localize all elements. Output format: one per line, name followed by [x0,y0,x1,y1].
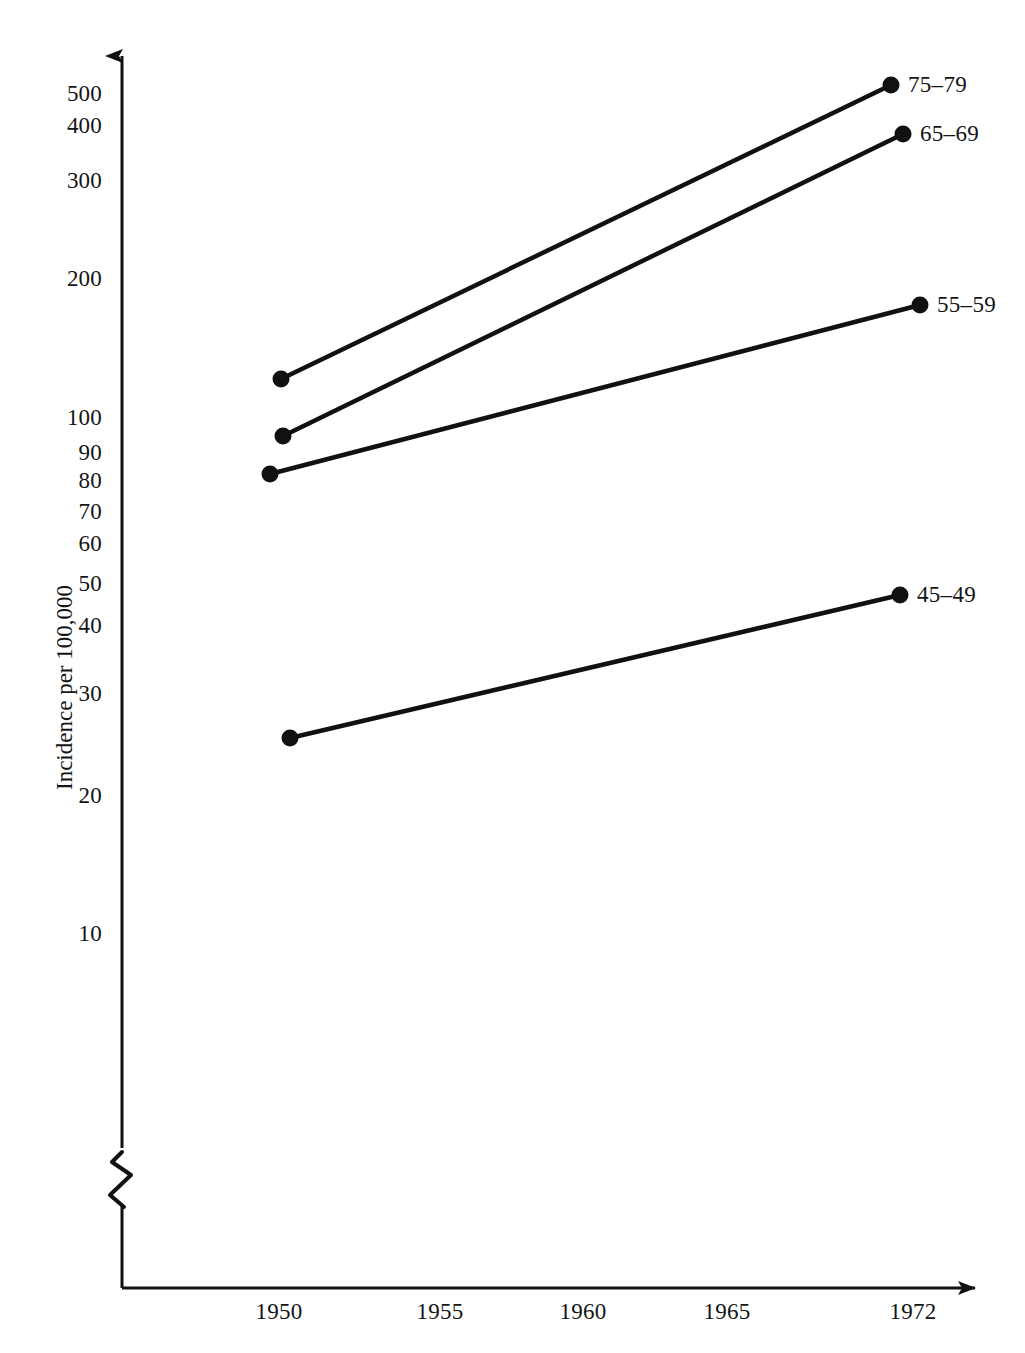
data-point-marker [275,428,292,445]
y-tick-label-500: 500 [24,82,102,105]
y-tick-label-10: 10 [24,922,102,945]
series-label-75-79: 75–79 [908,73,967,96]
y-tick-label-80: 80 [24,469,102,492]
series-label-45-49: 45–49 [917,583,976,606]
data-point-marker [895,126,912,143]
chart-canvas [0,0,1025,1353]
x-tick-label-1965: 1965 [672,1300,782,1323]
y-tick-label-30: 30 [24,682,102,705]
y-tick-label-60: 60 [24,532,102,555]
data-point-marker [912,297,929,314]
y-tick-label-40: 40 [24,614,102,637]
series-line-55-59 [262,297,929,483]
x-tick-label-1960: 1960 [528,1300,638,1323]
data-point-marker [262,466,279,483]
y-tick-label-70: 70 [24,500,102,523]
chart-figure: Incidence per 100,000 500 400 300 200 10… [0,0,1025,1353]
series-line-45-49 [282,587,909,747]
series-line-65-69 [275,126,912,445]
y-tick-label-200: 200 [24,267,102,290]
x-tick-label-1950: 1950 [224,1300,334,1323]
data-point-marker [282,730,299,747]
y-tick-label-300: 300 [24,169,102,192]
data-point-marker [273,371,290,388]
data-point-marker [883,77,900,94]
y-tick-label-100: 100 [24,406,102,429]
series-line-75-79 [273,77,900,388]
x-tick-label-1955: 1955 [385,1300,495,1323]
y-tick-label-50: 50 [24,572,102,595]
data-point-marker [892,587,909,604]
y-tick-label-20: 20 [24,784,102,807]
y-axis-break-icon [110,1152,131,1207]
x-tick-label-1972: 1972 [858,1300,968,1323]
y-tick-label-400: 400 [24,114,102,137]
series-label-65-69: 65–69 [920,122,979,145]
series-label-55-59: 55–59 [937,293,996,316]
y-tick-label-90: 90 [24,441,102,464]
